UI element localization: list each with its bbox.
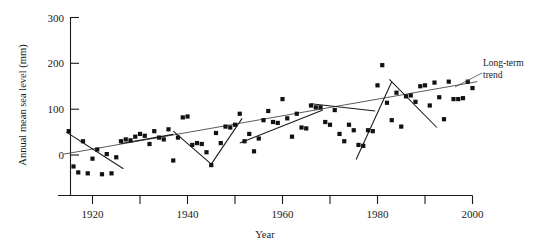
data-point: [261, 118, 265, 122]
data-point: [90, 157, 94, 161]
data-point: [152, 129, 156, 133]
data-points: [67, 63, 475, 176]
data-point: [86, 171, 90, 175]
data-point: [409, 93, 413, 97]
data-point: [356, 143, 360, 147]
x-tick-label-1920: 1920: [82, 208, 105, 220]
data-point: [195, 141, 199, 145]
data-point: [67, 129, 71, 133]
x-axis: 1920 1940 1960 1980 2000 Year: [58, 196, 484, 241]
data-point: [280, 97, 284, 101]
data-point: [171, 158, 175, 162]
data-point: [385, 101, 389, 105]
data-point: [138, 132, 142, 136]
data-point: [375, 83, 379, 87]
data-point: [442, 117, 446, 121]
data-point: [394, 91, 398, 95]
data-point: [447, 80, 451, 84]
data-point: [105, 152, 109, 156]
long-term-trend-annotation: Long-term trend: [455, 58, 524, 87]
data-point: [181, 115, 185, 119]
data-point: [119, 139, 123, 143]
data-point: [328, 123, 332, 127]
annotation-leader-line: [455, 73, 482, 87]
data-point: [461, 96, 465, 100]
data-point: [233, 123, 237, 127]
data-point: [257, 136, 261, 140]
segment-trend-lines: [66, 79, 437, 168]
y-axis-ticks: [71, 18, 80, 156]
x-tick-label-1960: 1960: [272, 208, 295, 220]
annotation-label-line2: trend: [483, 70, 503, 80]
data-point: [285, 116, 289, 120]
x-axis-title: Year: [255, 229, 275, 240]
y-axis-title: Annual mean sea level (mm): [17, 44, 29, 166]
data-point: [200, 142, 204, 146]
data-point: [361, 144, 365, 148]
data-point: [238, 112, 242, 116]
data-point: [432, 80, 436, 84]
data-point: [423, 83, 427, 87]
data-point: [271, 120, 275, 124]
data-point: [143, 134, 147, 138]
data-point: [347, 123, 351, 127]
data-point: [228, 125, 232, 129]
data-point: [371, 129, 375, 133]
data-point: [147, 142, 151, 146]
y-tick-label-300: 300: [48, 12, 65, 24]
long-term-trend-line: [64, 82, 477, 154]
data-point: [342, 139, 346, 143]
data-point: [437, 95, 441, 99]
data-point: [76, 170, 80, 174]
data-point: [204, 150, 208, 154]
data-point: [366, 128, 370, 132]
data-point: [404, 94, 408, 98]
data-point: [290, 135, 294, 139]
data-point: [399, 124, 403, 128]
data-point: [176, 135, 180, 139]
data-point: [304, 126, 308, 130]
data-point: [162, 137, 166, 141]
data-point: [95, 147, 99, 151]
data-point: [185, 114, 189, 118]
y-tick-label-100: 100: [48, 103, 65, 115]
data-point: [390, 118, 394, 122]
data-point: [124, 137, 128, 141]
data-point: [380, 63, 384, 67]
data-point: [323, 120, 327, 124]
x-tick-label-2000: 2000: [462, 208, 485, 220]
data-point: [451, 97, 455, 101]
data-point: [109, 171, 113, 175]
y-axis: 300 200 100 0 Annual mean sea level (mm): [17, 12, 79, 196]
data-point: [309, 103, 313, 107]
long-term-trend-segment: [64, 82, 477, 154]
data-point: [100, 172, 104, 176]
data-point: [133, 135, 137, 139]
segment-1915-1926: [66, 132, 123, 169]
data-point: [242, 139, 246, 143]
y-axis-tick-labels: 300 200 100 0: [48, 12, 65, 162]
data-point: [314, 105, 318, 109]
data-point: [71, 164, 75, 168]
data-point: [456, 97, 460, 101]
data-point: [247, 132, 251, 136]
data-point: [276, 121, 280, 125]
y-tick-label-200: 200: [48, 57, 65, 69]
data-point: [318, 105, 322, 109]
data-point: [223, 124, 227, 128]
data-point: [418, 84, 422, 88]
x-tick-label-1980: 1980: [367, 208, 390, 220]
data-point: [299, 125, 303, 129]
x-axis-ticks: [93, 196, 473, 205]
data-point: [252, 149, 256, 153]
data-point: [333, 108, 337, 112]
data-point: [219, 141, 223, 145]
data-point: [81, 139, 85, 143]
x-axis-tick-labels: 1920 1940 1960 1980 2000: [82, 208, 485, 220]
chart-canvas: 300 200 100 0 Annual mean sea level (mm): [0, 0, 534, 251]
data-point: [295, 112, 299, 116]
data-point: [413, 100, 417, 104]
data-point: [166, 127, 170, 131]
data-point: [470, 86, 474, 90]
y-tick-label-0: 0: [59, 149, 65, 161]
